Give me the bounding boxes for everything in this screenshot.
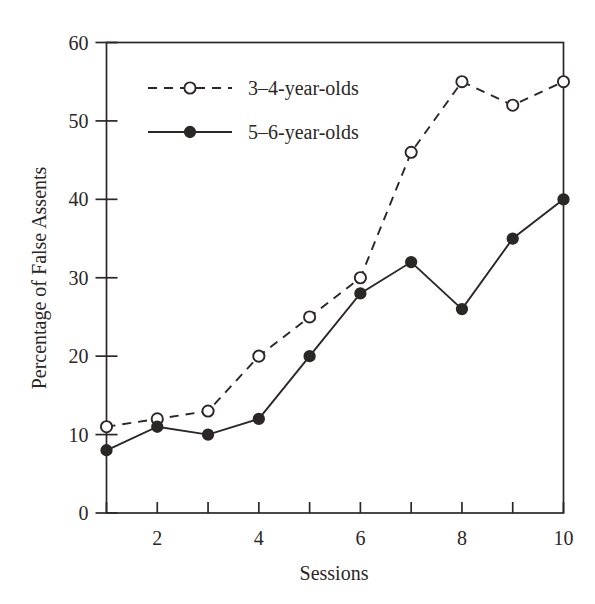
x-tick-label: 2: [152, 527, 162, 549]
data-point: [304, 311, 315, 322]
data-point: [456, 76, 467, 87]
chart-svg: 0102030405060 246810 3–4-year-olds5–6-ye…: [0, 0, 595, 604]
data-point: [355, 288, 365, 298]
legend-marker-1: [184, 82, 195, 93]
data-point: [101, 445, 111, 455]
data-point: [152, 422, 162, 432]
y-tick-label: 10: [69, 424, 89, 446]
y-tick-label: 0: [79, 502, 89, 524]
x-tick-label: 8: [457, 527, 467, 549]
data-point: [406, 257, 416, 267]
legend-marker-2: [185, 127, 195, 137]
chart-figure: 0102030405060 246810 3–4-year-olds5–6-ye…: [0, 0, 595, 604]
legend-label-2: 5–6-year-olds: [248, 121, 359, 144]
data-point: [508, 233, 518, 243]
x-tick-label: 4: [254, 527, 264, 549]
y-tick-label: 60: [69, 32, 89, 54]
y-axis-title: Percentage of False Assents: [28, 166, 51, 389]
data-point: [203, 429, 213, 439]
data-point: [406, 147, 417, 158]
data-point: [457, 304, 467, 314]
data-point: [253, 351, 264, 362]
data-point: [507, 100, 518, 111]
data-point: [101, 421, 112, 432]
x-axis-title: Sessions: [300, 562, 369, 584]
legend-label-1: 3–4-year-olds: [248, 77, 359, 100]
y-tick-label: 40: [69, 188, 89, 210]
data-point: [202, 405, 213, 416]
x-tick-label: 6: [355, 527, 365, 549]
data-point: [355, 272, 366, 283]
data-point: [304, 351, 314, 361]
y-tick-label: 50: [69, 110, 89, 132]
y-tick-label: 20: [69, 345, 89, 367]
data-point: [254, 414, 264, 424]
data-point: [558, 76, 569, 87]
y-tick-label: 30: [69, 267, 89, 289]
data-point: [558, 194, 568, 204]
x-tick-label: 10: [554, 527, 574, 549]
